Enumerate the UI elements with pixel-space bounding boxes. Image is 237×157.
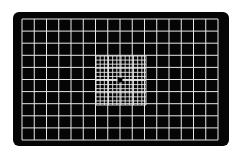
grid-chart xyxy=(0,0,237,157)
center-point-icon xyxy=(118,78,123,83)
